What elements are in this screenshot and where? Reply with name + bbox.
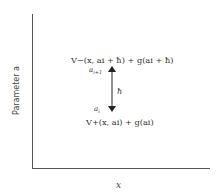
x-axis bbox=[32, 168, 210, 169]
y-axis bbox=[32, 14, 33, 169]
upper-level-label: ai+1 bbox=[89, 66, 102, 75]
x-axis-label: x bbox=[116, 180, 121, 190]
lower-level-label: ai bbox=[94, 105, 100, 114]
step-label: ħ bbox=[117, 87, 122, 96]
upper-expression: V−(x, ai + ħ) + g(ai + ħ) bbox=[71, 55, 173, 65]
lower-expression: V+(x, ai) + g(ai) bbox=[86, 117, 154, 127]
y-axis-label: Parameter a bbox=[12, 61, 21, 121]
double-arrow-icon bbox=[107, 66, 117, 112]
